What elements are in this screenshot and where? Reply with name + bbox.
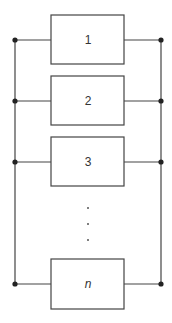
block-label-2: 2 xyxy=(85,94,92,108)
block-label-3: 3 xyxy=(85,155,92,169)
block-label-1: 1 xyxy=(85,33,92,47)
ellipsis-dots xyxy=(87,207,89,241)
block-label-n: n xyxy=(85,277,92,291)
parallel-system-diagram: 1 2 3 n xyxy=(0,0,172,323)
